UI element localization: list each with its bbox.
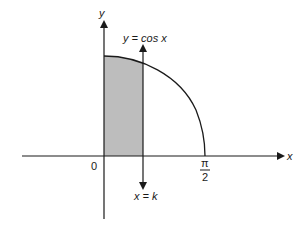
origin-label: 0	[91, 160, 97, 172]
shaded-region	[104, 56, 143, 156]
diagram-canvas: y x y = cos x x = k 0 π 2	[0, 0, 301, 240]
y-axis-label: y	[98, 7, 106, 19]
pi-label: π	[201, 157, 209, 169]
curve-label: y = cos x	[122, 32, 167, 44]
x-axis-label: x	[286, 150, 293, 162]
vertical-line-label: x = k	[133, 190, 158, 202]
two-label: 2	[202, 171, 208, 183]
